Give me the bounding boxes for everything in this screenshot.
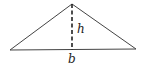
triangle-diagram: h b <box>0 0 145 67</box>
base-label: b <box>68 52 76 66</box>
height-label: h <box>77 22 85 36</box>
left-side <box>10 4 72 50</box>
base-line <box>10 49 136 50</box>
